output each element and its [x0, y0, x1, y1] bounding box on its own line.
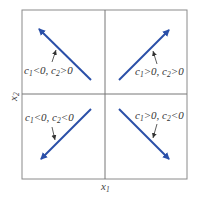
- y-axis-label: x2: [7, 92, 21, 102]
- quadrant-diagram: c1<0, c2>0 c1>0, c2>0 c1<0, c2<0 c1>0, c…: [0, 0, 201, 197]
- x-axis-label: x1: [100, 180, 110, 194]
